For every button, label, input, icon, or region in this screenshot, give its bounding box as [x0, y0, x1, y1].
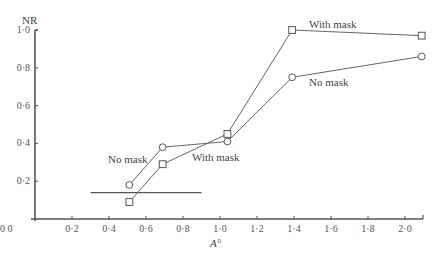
- series-no-mask: [126, 53, 425, 188]
- y-axis-title: NR: [22, 15, 37, 26]
- circle-marker-icon: [289, 74, 296, 81]
- annotation-with-mask-left: With mask: [192, 152, 240, 163]
- origin-label: 0 0: [0, 224, 26, 234]
- circle-marker-icon: [418, 53, 425, 60]
- square-marker-icon: [224, 131, 231, 138]
- y-tick-label: 1·0: [4, 25, 30, 35]
- x-tick-label: 1·4: [279, 224, 309, 234]
- annotation-with-mask-right: With mask: [309, 19, 357, 30]
- circle-marker-icon: [159, 144, 166, 151]
- y-tick-label: 0·2: [4, 176, 30, 186]
- square-marker-icon: [126, 199, 133, 206]
- circle-marker-icon: [224, 138, 231, 145]
- x-tick-label: 1·2: [242, 224, 272, 234]
- x-tick-label: 0·4: [94, 224, 124, 234]
- series-line: [129, 30, 421, 202]
- axes: [31, 30, 423, 221]
- circle-marker-icon: [126, 182, 133, 189]
- annotation-no-mask-right: No mask: [309, 77, 348, 88]
- y-tick-label: 0·6: [4, 101, 30, 111]
- x-tick-label: 1·8: [353, 224, 383, 234]
- x-tick-label: 1·0: [205, 224, 235, 234]
- square-marker-icon: [418, 32, 425, 39]
- x-axis-title: A°: [210, 238, 221, 249]
- series-with-mask: [126, 27, 425, 206]
- x-tick-label: 0·2: [57, 224, 87, 234]
- square-marker-icon: [289, 27, 296, 34]
- annotation-no-mask-left: No mask: [108, 154, 147, 165]
- x-tick-label: 0·8: [168, 224, 198, 234]
- chart-plot: [0, 0, 439, 258]
- y-tick-label: 0·8: [4, 63, 30, 73]
- x-tick-label: 2·0: [390, 224, 420, 234]
- y-tick-label: 0·4: [4, 138, 30, 148]
- square-marker-icon: [159, 161, 166, 168]
- x-tick-label: 0·6: [131, 224, 161, 234]
- series-line: [129, 56, 421, 185]
- x-tick-label: 1·6: [316, 224, 346, 234]
- series-layer: [126, 27, 425, 206]
